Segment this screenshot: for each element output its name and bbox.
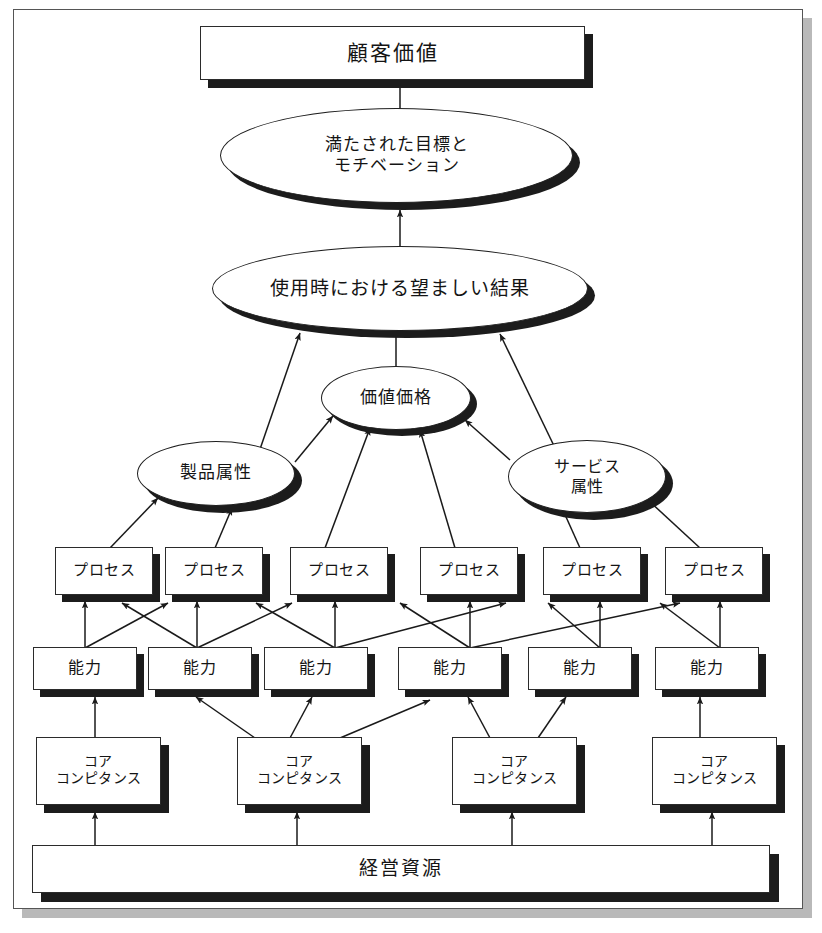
core-competence-node-4: コア コンピタンス — [652, 737, 777, 805]
service-attributes-line2: 属性 — [571, 477, 604, 497]
core-competence-1-line2: コンピタンス — [56, 771, 142, 788]
desired-outcomes-label: 使用時における望ましい結果 — [212, 246, 588, 331]
process-node-2: プロセス — [165, 547, 263, 595]
process-node-3: プロセス — [290, 547, 388, 595]
capability-label-6: 能力 — [655, 647, 759, 690]
process-node-4: プロセス — [420, 547, 518, 595]
satisfied-goals-face: 満たされた目標と モチベーション — [220, 108, 573, 203]
capability-node-3: 能力 — [264, 647, 368, 690]
diagram-canvas: 顧客価値 満たされた目標と モチベーション 使用時における望ましい結果 価値価格… — [0, 0, 822, 933]
service-attributes-line1: サービス — [554, 457, 620, 477]
core-competence-4-line2: コンピタンス — [672, 771, 758, 788]
core-competence-node-2: コア コンピタンス — [237, 737, 362, 805]
satisfied-goals-node: 満たされた目標と モチベーション — [220, 108, 580, 210]
process-node-5: プロセス — [543, 547, 641, 595]
management-resources-node: 経営資源 — [32, 845, 770, 893]
core-competence-3-line2: コンピタンス — [472, 771, 558, 788]
core-competence-3-line1: コア — [500, 754, 529, 771]
value-price-node: 価値価格 — [321, 366, 477, 436]
capability-node-2: 能力 — [148, 647, 252, 690]
capability-label-5: 能力 — [528, 647, 632, 690]
satisfied-goals-line1: 満たされた目標と — [325, 135, 469, 156]
capability-label-4: 能力 — [398, 647, 502, 690]
capability-label-3: 能力 — [264, 647, 368, 690]
core-competence-4-line1: コア — [700, 754, 729, 771]
capability-node-6: 能力 — [655, 647, 759, 690]
process-node-6: プロセス — [665, 547, 763, 595]
capability-node-1: 能力 — [33, 647, 137, 690]
core-competence-2-line2: コンピタンス — [257, 771, 343, 788]
core-competence-face-4: コア コンピタンス — [652, 737, 777, 805]
value-price-label: 価値価格 — [321, 366, 471, 430]
process-label-1: プロセス — [55, 547, 153, 595]
process-label-6: プロセス — [665, 547, 763, 595]
core-competence-face-1: コア コンピタンス — [36, 737, 161, 805]
process-node-1: プロセス — [55, 547, 153, 595]
process-label-2: プロセス — [165, 547, 263, 595]
process-label-5: プロセス — [543, 547, 641, 595]
satisfied-goals-line2: モチベーション — [334, 156, 460, 177]
product-attributes-node: 製品属性 — [137, 441, 302, 513]
process-label-4: プロセス — [420, 547, 518, 595]
core-competence-face-2: コア コンピタンス — [237, 737, 362, 805]
core-competence-node-1: コア コンピタンス — [36, 737, 161, 805]
customer-value-label: 顧客価値 — [200, 26, 585, 80]
desired-outcomes-node: 使用時における望ましい結果 — [212, 246, 595, 338]
capability-label-1: 能力 — [33, 647, 137, 690]
core-competence-face-3: コア コンピタンス — [452, 737, 577, 805]
capability-label-2: 能力 — [148, 647, 252, 690]
customer-value-node: 顧客価値 — [200, 26, 585, 80]
core-competence-node-3: コア コンピタンス — [452, 737, 577, 805]
capability-node-5: 能力 — [528, 647, 632, 690]
capability-node-4: 能力 — [398, 647, 502, 690]
product-attributes-label: 製品属性 — [137, 441, 295, 506]
service-attributes-node: サービス 属性 — [508, 440, 673, 520]
core-competence-2-line1: コア — [285, 754, 314, 771]
management-resources-label: 経営資源 — [32, 845, 770, 893]
core-competence-1-line1: コア — [84, 754, 113, 771]
process-label-3: プロセス — [290, 547, 388, 595]
service-attributes-face: サービス 属性 — [508, 440, 666, 513]
